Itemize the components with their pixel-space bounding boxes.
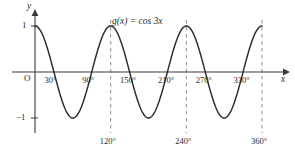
x-axis-tick-label: 210° (158, 76, 174, 85)
y-axis-label: y (27, 2, 31, 12)
x-axis-tick-label: 90° (82, 76, 94, 85)
dashed-gridline-label: 360° (251, 137, 267, 146)
dashed-gridline-label: 240° (175, 137, 191, 146)
curve-equation-label: g(x) = cos 3x (112, 17, 162, 27)
x-axis-tick-label: 150° (120, 76, 136, 85)
x-axis-label: x (281, 75, 285, 85)
x-axis-tick-label: 270° (196, 76, 212, 85)
dashed-gridline-label: 120° (100, 137, 116, 146)
y-tick-label-minus-one: −1 (16, 113, 26, 122)
y-axis-arrowhead (32, 9, 39, 16)
y-tick-label-one: 1 (22, 21, 27, 30)
origin-label: O (24, 74, 31, 83)
function-graph-figure: y x O 1 −1 30°90°150°210°270°330° 120°24… (0, 0, 295, 154)
x-axis-tick-label: 330° (234, 76, 250, 85)
x-axis-tick-label: 30° (44, 76, 56, 85)
